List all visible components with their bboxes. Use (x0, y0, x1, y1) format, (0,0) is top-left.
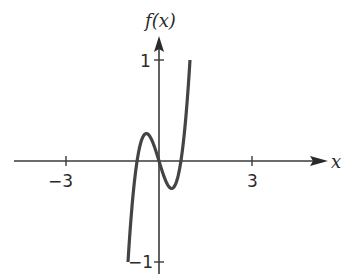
x-tick-label-neg3: −3 (48, 171, 73, 191)
y-axis-label: f(x) (143, 10, 176, 31)
x-tick-label-pos3: 3 (247, 171, 258, 191)
y-tick-label-pos1: 1 (140, 51, 151, 71)
y-tick-label-neg1: −1 (128, 252, 153, 272)
x-axis-label: x (331, 151, 341, 172)
function-graph: x f(x) −3 3 1 −1 (0, 0, 342, 276)
